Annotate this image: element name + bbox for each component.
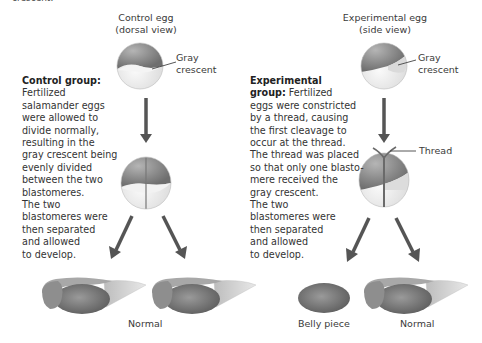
experimental-tadpole — [364, 277, 468, 314]
control-gray-crescent-line1: Gray — [176, 52, 217, 64]
belly-piece-blob — [298, 283, 350, 313]
experimental-description-lines: eggs were constrictedby a thread, causin… — [250, 100, 375, 261]
experimental-egg-title: Experimental egg (side view) — [335, 12, 435, 36]
description-line: evenly divided — [22, 162, 137, 174]
description-line: Fertilized — [22, 87, 137, 99]
description-line: resulting in the — [22, 137, 137, 149]
description-line: The thread was placed — [250, 149, 375, 161]
description-line: to develop. — [250, 249, 375, 261]
control-gray-crescent-label: Gray crescent — [176, 52, 217, 76]
control-group-description: Control group: Fertilizedsalamander eggs… — [22, 75, 137, 261]
control-tadpole-left — [42, 277, 146, 314]
description-line: salamander eggs — [22, 100, 137, 112]
experimental-group-heading-line2: group: — [250, 87, 286, 98]
thread-label: Thread — [419, 145, 452, 157]
experimental-egg-title-line2: (side view) — [335, 24, 435, 36]
description-line: occur at the thread. — [250, 137, 375, 149]
experimental-first-line-rest: Fertilized — [289, 87, 333, 98]
control-group-heading: Control group: — [22, 75, 101, 86]
description-line: mere received the — [250, 174, 375, 186]
experimental-outcome-label: Normal — [400, 318, 434, 330]
experimental-arrow-right — [396, 218, 413, 252]
description-line: gray crescent. — [250, 187, 375, 199]
experimental-group-description: Experimental group: Fertilized eggs were… — [250, 75, 375, 261]
control-description-lines: Fertilizedsalamander eggswere allowed to… — [22, 87, 137, 261]
description-line: between the two — [22, 174, 137, 186]
description-line: gray crescent being — [22, 149, 137, 161]
description-line: so that only one blasto- — [250, 162, 375, 174]
description-line: blastomeres were — [250, 211, 375, 223]
description-line: to develop. — [22, 249, 137, 261]
description-line: and allowed — [250, 236, 375, 248]
experimental-gray-crescent-label: Gray crescent — [418, 52, 459, 76]
belly-piece-label: Belly piece — [298, 318, 350, 330]
description-line: eggs were constricted — [250, 100, 375, 112]
description-line: The two — [22, 199, 137, 211]
description-line: blastomeres were — [22, 211, 137, 223]
experimental-gray-crescent-line1: Gray — [418, 52, 459, 64]
experimental-group-heading-line1: Experimental — [250, 75, 322, 86]
control-arrow-right — [163, 216, 180, 250]
control-tadpole-right — [152, 277, 256, 314]
description-line: were allowed to — [22, 112, 137, 124]
description-line: then separated — [22, 224, 137, 236]
description-line: divide normally, — [22, 125, 137, 137]
experimental-gray-crescent-line2: crescent — [418, 64, 459, 76]
description-line: then separated — [250, 224, 375, 236]
description-line: by a thread, causing — [250, 112, 375, 124]
description-line: blastomeres. — [22, 187, 137, 199]
description-line: the first cleavage to — [250, 125, 375, 137]
description-line: and allowed — [22, 236, 137, 248]
experimental-egg-title-line1: Experimental egg — [335, 12, 435, 24]
control-outcome-label: Normal — [128, 318, 162, 330]
control-gray-crescent-line2: crescent — [176, 64, 217, 76]
description-line: The two — [250, 199, 375, 211]
